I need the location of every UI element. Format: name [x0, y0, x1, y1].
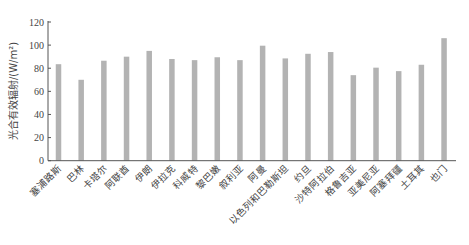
x-tick-label: 卡塔尔 [80, 162, 109, 191]
bar [419, 65, 425, 161]
bar [146, 51, 152, 161]
y-axis: 020406080100120 [29, 17, 51, 167]
bar [101, 61, 107, 161]
y-tick-label: 100 [29, 40, 44, 51]
bar-chart: 020406080100120 塞浦路斯巴林卡塔尔阿联酋伊朗伊拉克科威特黎巴嫩叙… [0, 0, 469, 245]
x-tick-label: 科威特 [171, 162, 200, 191]
y-tick-label: 40 [34, 109, 44, 120]
bar [351, 75, 357, 161]
bar [192, 60, 198, 161]
bar [260, 46, 266, 161]
bar [215, 57, 221, 160]
bar [328, 52, 334, 161]
bar [305, 54, 311, 161]
bar [283, 58, 289, 160]
x-tick-label: 土耳其 [398, 162, 427, 191]
x-tick-label: 黎巴嫩 [194, 162, 223, 191]
bar [237, 60, 243, 161]
x-tick-label: 塞浦路斯 [28, 162, 64, 198]
bar [441, 38, 447, 161]
bar [124, 57, 130, 161]
y-tick-label: 60 [34, 86, 44, 97]
y-tick-label: 120 [29, 17, 44, 28]
y-tick-label: 20 [34, 132, 44, 143]
bar [78, 80, 84, 161]
y-tick-label: 80 [34, 63, 44, 74]
x-tick-label: 也门 [428, 162, 450, 184]
x-tick-label: 阿联酋 [103, 162, 132, 191]
bars [56, 38, 447, 161]
bar [396, 71, 402, 161]
bar [169, 59, 175, 161]
x-tick-label: 伊拉克 [148, 162, 177, 191]
y-tick-label: 0 [39, 155, 44, 166]
x-tick-label: 叙利亚 [216, 162, 245, 191]
bar [373, 68, 379, 161]
x-axis: 塞浦路斯巴林卡塔尔阿联酋伊朗伊拉克科威特黎巴嫩叙利亚阿曼以色列和巴勒斯坦约旦沙特… [28, 161, 456, 227]
bar [56, 64, 62, 161]
y-axis-label: 光合有效辐射/(W/m²) [7, 42, 19, 140]
